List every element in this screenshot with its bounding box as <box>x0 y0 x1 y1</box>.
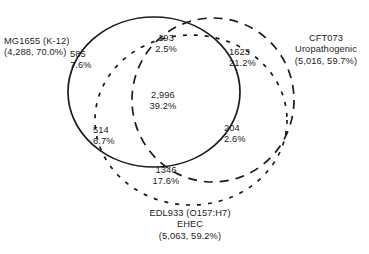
region-mg1655-edl933-percent: 6.7% <box>93 136 115 147</box>
set-label-mg1655: MG1655 (K-12) (4,288, 70.0%) <box>4 36 69 59</box>
set-label-edl933-line2: EHEC <box>116 219 264 230</box>
region-label-edl933-only: 1346 17.6% <box>144 165 188 188</box>
region-cft073-only-percent: 21.2% <box>229 58 256 69</box>
set-label-edl933-line3: (5,063, 59.2%) <box>116 231 264 242</box>
region-edl933-only-percent: 17.6% <box>144 176 188 187</box>
region-cft073-edl933-count: 204 <box>224 123 246 134</box>
region-all-three-count: 2,996 <box>140 90 186 101</box>
set-label-cft073-line3: (5,016, 59.7%) <box>285 56 367 67</box>
set-label-mg1655-line2: (4,288, 70.0%) <box>4 47 69 58</box>
region-label-mg1655-only: 585 7.6% <box>70 49 92 72</box>
region-label-mg1655-edl933: 514 6.7% <box>93 125 115 148</box>
set-label-cft073: CFT073 Uropathogenic (5,016, 59.7%) <box>285 33 367 67</box>
region-cft073-only-count: 1623 <box>229 47 256 58</box>
region-mg1655-cft073-percent: 2.5% <box>146 44 186 55</box>
region-mg1655-cft073-count: 193 <box>146 33 186 44</box>
region-label-mg1655-cft073: 193 2.5% <box>146 33 186 56</box>
set-label-mg1655-line1: MG1655 (K-12) <box>4 36 69 47</box>
region-mg1655-edl933-count: 514 <box>93 125 115 136</box>
set-label-edl933-line1: EDL933 (O157:H7) <box>116 208 264 219</box>
set-label-cft073-line2: Uropathogenic <box>285 44 367 55</box>
region-edl933-only-count: 1346 <box>144 165 188 176</box>
region-label-cft073-edl933: 204 2.6% <box>224 123 246 146</box>
region-label-cft073-only: 1623 21.2% <box>229 47 256 70</box>
set-label-cft073-line1: CFT073 <box>285 33 367 44</box>
region-all-three-percent: 39.2% <box>140 101 186 112</box>
venn-diagram-figure: MG1655 (K-12) (4,288, 70.0%) CFT073 Urop… <box>0 0 369 254</box>
region-cft073-edl933-percent: 2.6% <box>224 134 246 145</box>
region-label-all-three: 2,996 39.2% <box>140 90 186 113</box>
region-mg1655-only-count: 585 <box>70 49 92 60</box>
set-label-edl933: EDL933 (O157:H7) EHEC (5,063, 59.2%) <box>116 208 264 242</box>
region-mg1655-only-percent: 7.6% <box>70 60 92 71</box>
